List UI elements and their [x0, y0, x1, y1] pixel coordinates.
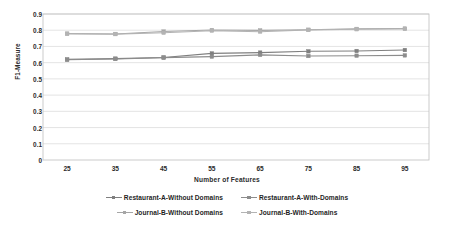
legend-marker-icon: [241, 194, 257, 201]
legend-item: Journal-B-Without Domains: [117, 209, 223, 216]
legend-item: Restaurant-A-Without Domains: [106, 194, 223, 201]
x-axis-tick-label: 25: [52, 165, 82, 172]
x-axis-tick-label: 95: [390, 165, 420, 172]
x-axis-tick-label: 65: [245, 165, 275, 172]
legend-marker-icon: [117, 209, 133, 216]
legend-label: Restaurant-A-With-Domains: [259, 194, 348, 201]
legend-marker-icon: [106, 194, 122, 201]
x-axis-tick-label: 85: [342, 165, 372, 172]
legend-item: Journal-B-With-Domains: [241, 209, 337, 216]
legend-marker-icon: [241, 209, 257, 216]
legend-item: Restaurant-A-With-Domains: [241, 194, 348, 201]
legend-label: Journal-B-With-Domains: [259, 209, 337, 216]
legend-label: Journal-B-Without Domains: [135, 209, 223, 216]
x-axis-tick-label: 75: [293, 165, 323, 172]
legend-row-1: Restaurant-A-Without DomainsRestaurant-A…: [0, 190, 454, 205]
x-axis-tick-label: 35: [100, 165, 130, 172]
line-chart: F1-Measure 0.90.80.70.60.50.40.30.20.10 …: [0, 0, 454, 235]
x-axis-tick-label: 55: [197, 165, 227, 172]
legend-row-2: Journal-B-Without DomainsJournal-B-With-…: [0, 205, 454, 220]
x-axis-tick-label: 45: [149, 165, 179, 172]
legend-label: Restaurant-A-Without Domains: [124, 194, 223, 201]
chart-legend: Restaurant-A-Without DomainsRestaurant-A…: [0, 190, 454, 220]
x-axis-title: Number of Features: [0, 176, 454, 183]
